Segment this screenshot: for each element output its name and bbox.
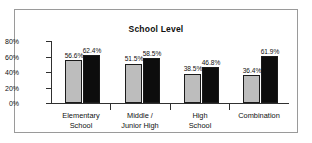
y-axis-line xyxy=(51,41,52,103)
y-tick-label-60: 60% xyxy=(0,53,19,60)
category-label-combination-line1: Combination xyxy=(222,111,296,121)
y-tick-mark-20 xyxy=(46,88,51,89)
group-separator-3 xyxy=(229,103,230,110)
bar-label-dark-2: 58.5% xyxy=(135,50,169,57)
category-label-combination: Combination xyxy=(222,111,296,121)
chart-title: School Level xyxy=(15,24,297,34)
group-separator-1 xyxy=(110,103,111,110)
bar-light-3[interactable] xyxy=(184,74,201,103)
bar-dark-2[interactable] xyxy=(143,58,160,103)
bar-label-light-3: 38.5% xyxy=(176,65,210,72)
bar-label-dark-4: 61.9% xyxy=(253,48,287,55)
bar-light-2[interactable] xyxy=(125,64,142,103)
bar-dark-1[interactable] xyxy=(83,55,100,103)
bar-dark-4[interactable] xyxy=(261,56,278,103)
chart-figure: School Level 80% 60% 40% 20% 0% 56.6% 62… xyxy=(14,9,298,133)
y-tick-mark-0 xyxy=(46,103,51,104)
y-tick-mark-40 xyxy=(46,72,51,73)
y-tick-label-80: 80% xyxy=(0,38,19,45)
bar-dark-3[interactable] xyxy=(202,67,219,103)
bar-label-light-4: 36.4% xyxy=(235,67,269,74)
y-tick-mark-60 xyxy=(46,57,51,58)
bar-light-4[interactable] xyxy=(243,75,260,103)
group-separator-2 xyxy=(170,103,171,110)
category-label-high-line2: School xyxy=(163,121,237,131)
y-tick-label-0: 0% xyxy=(0,100,19,107)
y-tick-label-20: 20% xyxy=(0,84,19,91)
bar-label-dark-1: 62.4% xyxy=(75,47,109,54)
bar-label-dark-3: 46.8% xyxy=(194,59,228,66)
y-tick-mark-80 xyxy=(46,41,51,42)
bar-light-1[interactable] xyxy=(65,60,82,103)
y-tick-label-40: 40% xyxy=(0,69,19,76)
